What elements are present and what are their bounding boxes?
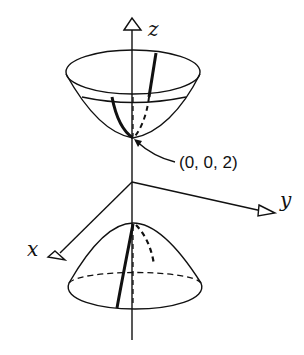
lower-sheet bbox=[68, 223, 202, 309]
y-axis-label: y bbox=[279, 188, 292, 212]
x-axis bbox=[48, 182, 132, 260]
x-axis-label: x bbox=[27, 237, 38, 261]
y-arrow-icon bbox=[258, 205, 275, 216]
point-label: (0, 0, 2) bbox=[179, 153, 238, 172]
y-axis bbox=[132, 182, 275, 216]
z-axis-label: z bbox=[147, 17, 159, 41]
vertex-annotation: (0, 0, 2) bbox=[134, 139, 238, 172]
x-arrow-icon bbox=[48, 251, 65, 260]
hyperboloid-diagram: (0, 0, 2) z y x bbox=[0, 0, 304, 355]
upper-sheet bbox=[66, 50, 200, 138]
z-arrow-icon bbox=[124, 18, 141, 30]
